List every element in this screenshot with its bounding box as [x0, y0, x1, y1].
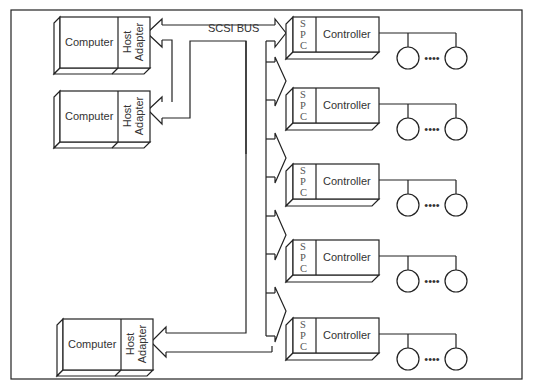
- spc-letter: P: [300, 29, 306, 40]
- host-adapter-label-1: Host: [121, 105, 133, 128]
- spc-letter: S: [300, 241, 306, 252]
- computer-label: Computer: [68, 338, 117, 350]
- spc-letter: C: [300, 40, 307, 51]
- scsi-bus-diagram: SCSI BUS Computer Host Adapter Computer …: [0, 0, 533, 385]
- spc-letter: S: [300, 319, 306, 330]
- device-ellipsis: ••••: [424, 199, 440, 211]
- device-ellipsis: ••••: [424, 52, 440, 64]
- spc-letter: P: [300, 252, 306, 263]
- spc-letter: C: [300, 111, 307, 122]
- controller-3: S P C Controller ••••: [286, 164, 467, 216]
- controller-2: S P C Controller ••••: [286, 88, 467, 140]
- disk-device-icon: [397, 194, 419, 216]
- host-adapter-label-1: Host: [124, 333, 136, 356]
- scsi-bus: SCSI BUS: [147, 19, 286, 357]
- spc-letter: S: [300, 89, 306, 100]
- computer-3: Computer Host Adapter: [57, 319, 153, 376]
- disk-device-icon: [445, 348, 467, 370]
- disk-device-icon: [397, 118, 419, 140]
- controller-4: S P C Controller ••••: [286, 240, 467, 292]
- spc-letter: P: [300, 330, 306, 341]
- device-ellipsis: ••••: [424, 353, 440, 365]
- controller-label: Controller: [323, 99, 371, 111]
- computer-label: Computer: [65, 110, 114, 122]
- disk-device-icon: [445, 270, 467, 292]
- computer-1: Computer Host Adapter: [54, 17, 150, 74]
- spc-letter: S: [300, 18, 306, 29]
- disk-device-icon: [445, 47, 467, 69]
- disk-device-icon: [397, 47, 419, 69]
- disk-device-icon: [445, 194, 467, 216]
- bus-label: SCSI BUS: [208, 22, 259, 34]
- controller-label: Controller: [323, 329, 371, 341]
- disk-device-icon: [397, 348, 419, 370]
- spc-letter: P: [300, 100, 306, 111]
- controller-5: S P C Controller ••••: [286, 318, 467, 370]
- host-adapter-label-2: Adapter: [133, 22, 145, 61]
- controller-1: S P C Controller ••••: [286, 17, 467, 69]
- controller-label: Controller: [323, 251, 371, 263]
- disk-device-icon: [397, 270, 419, 292]
- computer-2: Computer Host Adapter: [54, 91, 150, 148]
- spc-letter: C: [300, 187, 307, 198]
- host-adapter-label-2: Adapter: [136, 324, 148, 363]
- host-adapter-label-1: Host: [121, 31, 133, 54]
- spc-letter: S: [300, 165, 306, 176]
- disk-device-icon: [445, 118, 467, 140]
- spc-letter: P: [300, 176, 306, 187]
- device-ellipsis: ••••: [424, 123, 440, 135]
- device-ellipsis: ••••: [424, 275, 440, 287]
- host-adapter-label-2: Adapter: [133, 96, 145, 135]
- computer-label: Computer: [65, 36, 114, 48]
- spc-letter: C: [300, 263, 307, 274]
- spc-letter: C: [300, 341, 307, 352]
- controller-label: Controller: [323, 175, 371, 187]
- controller-label: Controller: [323, 28, 371, 40]
